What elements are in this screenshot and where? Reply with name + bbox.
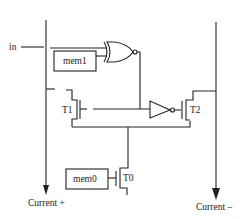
transistor-t0: T0 — [116, 127, 134, 195]
input-label: in — [9, 42, 17, 52]
mem1-cell: mem1 — [54, 51, 96, 71]
t2-label: T2 — [190, 105, 201, 115]
circuit-diagram: Current + Current – in mem1 T1 — [0, 0, 242, 219]
t0-label: T0 — [123, 173, 134, 183]
mem0-cell: mem0 — [66, 169, 108, 189]
xnor-gate-icon — [104, 42, 137, 62]
current-plus-label: Current + — [28, 198, 65, 208]
current-minus-label: Current – — [196, 202, 232, 212]
inverter-gate-icon — [150, 101, 175, 118]
mid-node-wire — [72, 121, 190, 127]
xnor-output-wire — [137, 52, 140, 109]
mem0-label: mem0 — [73, 174, 97, 184]
current-plus-rail — [43, 20, 49, 195]
t1-label: T1 — [62, 105, 73, 115]
current-minus-rail — [212, 22, 220, 200]
transistor-t2: T2 — [182, 91, 216, 120]
arrow-down-icon — [212, 188, 220, 200]
mem1-label: mem1 — [63, 56, 87, 66]
arrow-down-icon — [43, 185, 49, 195]
transistor-t1: T1 — [46, 89, 87, 127]
